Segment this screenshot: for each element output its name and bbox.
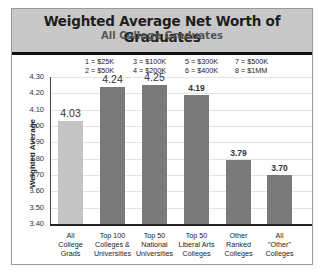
- bar: [58, 121, 83, 224]
- y-tick-label: 4.10: [18, 105, 44, 114]
- y-tick-label: 3.70: [18, 170, 44, 179]
- bar-value-label: 4.03: [51, 107, 91, 119]
- gridline: [50, 93, 312, 94]
- y-tick-label: 3.50: [18, 203, 44, 212]
- y-tick-label: 3.90: [18, 137, 44, 146]
- bar: [100, 87, 125, 224]
- bar-value-label: 3.79: [219, 148, 259, 158]
- y-tick-label: 4.30: [18, 72, 44, 81]
- y-tick-label: 4.20: [18, 88, 44, 97]
- y-tick-label: 3.40: [18, 219, 44, 228]
- x-category-label: Other Ranked Colleges: [217, 231, 261, 258]
- y-tick-label: 3.60: [18, 186, 44, 195]
- y-axis: [50, 77, 51, 225]
- gridline: [50, 159, 312, 160]
- bar-value-label: 3.70: [260, 163, 300, 173]
- bar-value-label: 4.24: [93, 73, 133, 85]
- bar: [226, 160, 251, 224]
- bar: [184, 95, 209, 224]
- gridline: [50, 126, 312, 127]
- x-category-label: All College Grads: [49, 231, 93, 258]
- x-category-label: Top 50 National Universities: [133, 231, 177, 258]
- legend-group-3: 5 = $300K 6 = $400K: [185, 57, 218, 75]
- y-tick-label: 4.00: [18, 121, 44, 130]
- gridline: [50, 142, 312, 143]
- header-divider: [12, 52, 312, 55]
- x-category-label: Top 100 Colleges & Universities: [91, 231, 135, 258]
- bar: [267, 175, 292, 224]
- bar-value-label: 4.19: [177, 83, 217, 93]
- chart-frame: Weighted Average Net Worth of Graduates …: [11, 8, 313, 265]
- chart-header: Weighted Average Net Worth of Graduates …: [12, 9, 312, 52]
- legend-group-4: 7 = $500K 8 = $1MM: [235, 57, 268, 75]
- gridline: [50, 77, 312, 78]
- y-tick-label: 3.80: [18, 154, 44, 163]
- x-category-label: Top 50 Liberal Arts Colleges: [175, 231, 219, 258]
- chart-subtitle: All College Graduates: [12, 30, 312, 41]
- x-axis: [50, 224, 312, 226]
- x-category-label: All "Other" Colleges: [258, 231, 302, 258]
- bar: [142, 85, 167, 224]
- bar-value-label: 4.25: [135, 71, 175, 83]
